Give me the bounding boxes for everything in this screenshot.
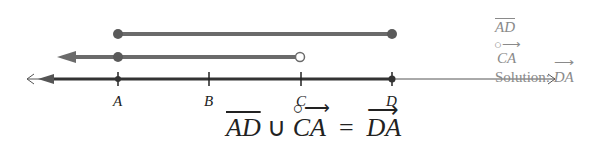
- number-line: [27, 72, 555, 86]
- point-label-a: A: [113, 93, 122, 110]
- ray-arrow-icon: ⟶: [554, 56, 574, 70]
- point-label-b: B: [204, 93, 213, 110]
- ray-ca: [57, 51, 305, 63]
- equation: AD ∪ ○⟶ CA = ⟶ DA: [226, 112, 401, 143]
- legend-segment-ad: AD: [495, 20, 515, 35]
- segment-ad: [113, 29, 397, 39]
- legend-solution: Solution: ⟶DA: [495, 70, 574, 85]
- open-ray-arrow-icon: ○⟶: [293, 97, 330, 119]
- ray-arrow-icon: ⟶: [367, 97, 399, 123]
- legend-ray-ca: CA: [497, 51, 516, 66]
